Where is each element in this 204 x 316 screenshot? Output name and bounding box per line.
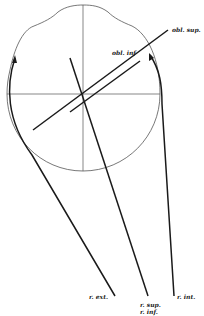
label-obl-inf: obl. inf (112, 49, 136, 56)
obl-inf-line (70, 61, 140, 112)
globe-outline (7, 5, 160, 171)
obl-sup-line (33, 30, 168, 130)
label-obl-sup: obl. sup. (172, 26, 201, 33)
label-r-inf-mid: r. inf. (140, 308, 158, 315)
label-r-ext: r. ext. (89, 293, 108, 300)
eye-muscle-diagram: obl. sup. obl. inf r. ext. r. sup. r. in… (0, 0, 204, 316)
r-int-path (150, 55, 174, 296)
label-r-int: r. int. (177, 293, 195, 300)
diagram-canvas (0, 0, 204, 316)
label-r-sup: r. sup. (140, 301, 161, 308)
